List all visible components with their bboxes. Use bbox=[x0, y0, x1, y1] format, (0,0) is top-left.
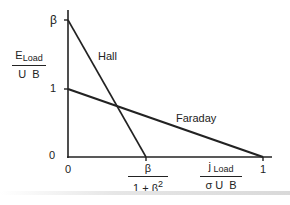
y-tick-label-one: 1 bbox=[50, 83, 56, 94]
x-axis-label-denominator: σ U B bbox=[200, 177, 242, 191]
x-tick-label-mid: β 1 + β2 bbox=[128, 163, 168, 194]
x-tick-label-zero: 0 bbox=[65, 164, 71, 175]
y-axis-label: ELoad U B bbox=[12, 50, 46, 80]
x-mid-numerator: β bbox=[128, 163, 168, 176]
x-num-sub: Load bbox=[211, 164, 234, 174]
faraday-label: Faraday bbox=[176, 113, 216, 124]
x-mid-den-sup: 2 bbox=[158, 179, 163, 189]
y-tick-label-zero: 0 bbox=[49, 150, 55, 161]
y-axis-label-numerator: ELoad bbox=[12, 50, 46, 65]
x-axis-label-numerator: j Load bbox=[200, 161, 242, 176]
y-num-main: E bbox=[15, 49, 22, 61]
x-tick-label-one: 1 bbox=[260, 164, 266, 175]
y-num-sub: Load bbox=[23, 53, 43, 63]
hall-label: Hall bbox=[98, 51, 117, 62]
y-tick-label-beta: β bbox=[50, 14, 57, 26]
faraday-line bbox=[68, 89, 263, 157]
y-axis-label-denominator: U B bbox=[12, 66, 46, 80]
page-edge-shadow bbox=[0, 191, 290, 195]
hall-line bbox=[68, 20, 146, 157]
x-axis-label: j Load σ U B bbox=[200, 161, 242, 191]
